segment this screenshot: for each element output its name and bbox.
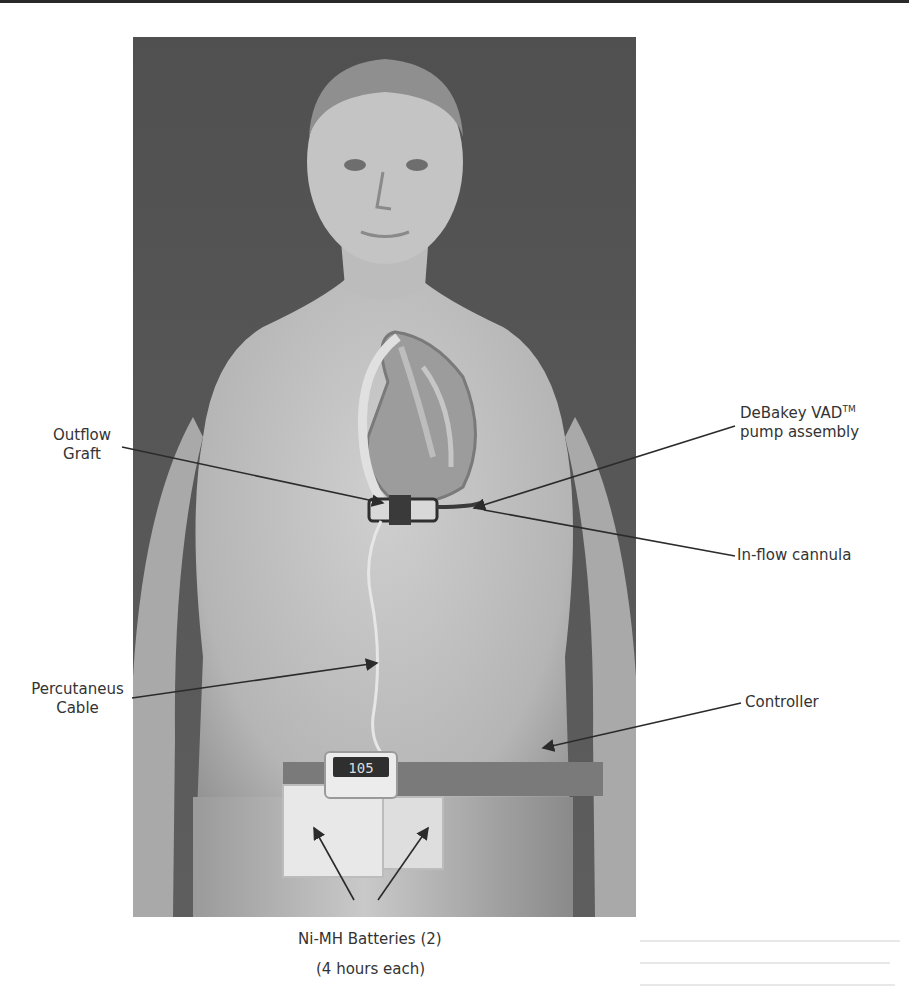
label-percutaneous-cable-line2: Cable [25, 699, 130, 718]
label-controller: Controller [745, 693, 819, 712]
patient-illustration: 105 [133, 37, 636, 917]
pump-assembly-name: DeBakey VAD [740, 404, 842, 422]
label-batteries-duration: (4 hours each) [316, 960, 425, 979]
bleed-through-text [640, 962, 890, 964]
label-pump-assembly-line1: DeBakey VADTM [740, 404, 859, 423]
label-pump-assembly: DeBakey VADTM pump assembly [740, 404, 859, 442]
bleed-through-text [640, 940, 900, 942]
label-percutaneous-cable-line1: Percutaneus [25, 680, 130, 699]
svg-text:105: 105 [348, 760, 373, 776]
patient-figure-art: 105 [133, 37, 636, 917]
bleed-through-text [640, 984, 895, 986]
label-outflow-graft-line1: Outflow [42, 426, 122, 445]
label-inflow-cannula: In-flow cannula [737, 546, 851, 565]
label-pump-assembly-line2: pump assembly [740, 423, 859, 442]
label-outflow-graft: Outflow Graft [42, 426, 122, 464]
label-outflow-graft-line2: Graft [42, 445, 122, 464]
label-batteries: Ni-MH Batteries (2) [298, 930, 442, 949]
label-percutaneous-cable: Percutaneus Cable [25, 680, 130, 718]
page-top-rule [0, 0, 909, 3]
trademark-superscript: TM [842, 404, 855, 414]
